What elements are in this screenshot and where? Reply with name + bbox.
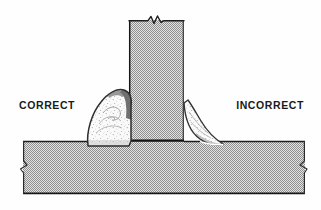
label-correct: CORRECT xyxy=(19,100,75,111)
weld-comparison-figure: CORRECT INCORRECT xyxy=(0,0,321,210)
vertical-plate xyxy=(129,16,184,141)
vertical-plate-body xyxy=(129,20,184,141)
horizontal-plate xyxy=(21,141,308,194)
horizontal-plate-body xyxy=(23,141,305,194)
correct-fillet-weld xyxy=(84,86,136,150)
label-incorrect: INCORRECT xyxy=(236,100,304,111)
